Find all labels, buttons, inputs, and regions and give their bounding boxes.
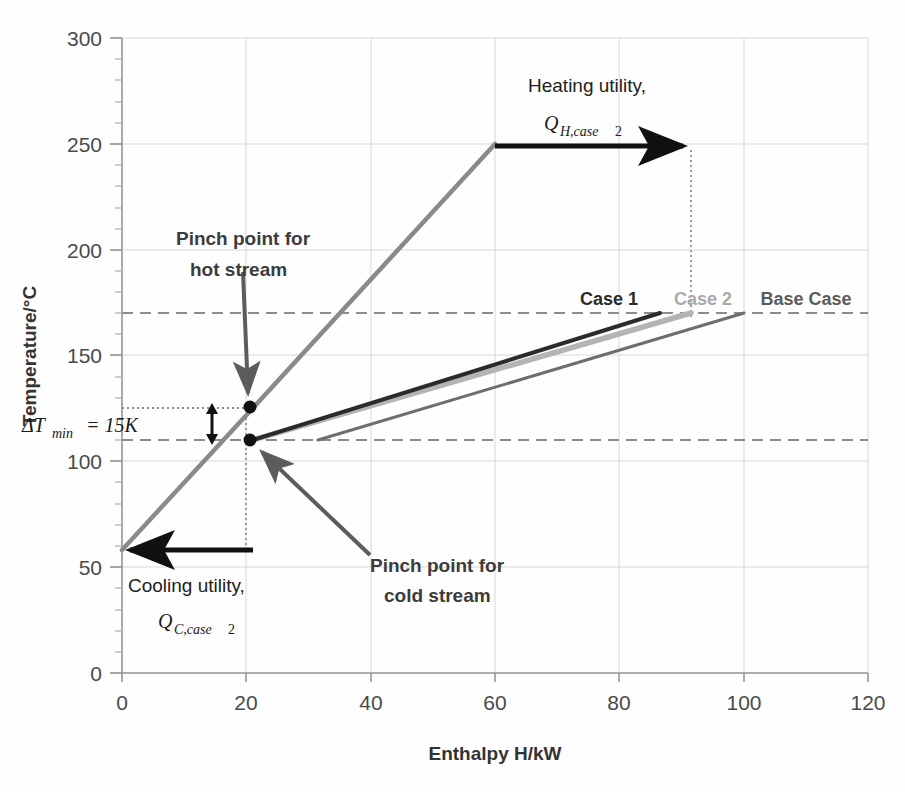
x-tick-label-20: 20 [234, 691, 257, 714]
y-tick-label-50: 50 [79, 556, 102, 579]
cooling-utility-symbol-main: Q [158, 610, 173, 632]
cold-pinch-point-marker [244, 434, 257, 447]
heating-utility-symbol-sub: H,case [559, 124, 599, 139]
x-tick-label-80: 80 [607, 691, 630, 714]
series-label-case-2: Case 2 [674, 289, 732, 309]
pinch-analysis-composite-curve-chart: 300 250 200 150 100 50 0 0 20 40 60 80 1… [0, 0, 905, 792]
x-tick-label-60: 60 [483, 691, 506, 714]
hot-pinch-point-marker [244, 401, 257, 414]
chart-canvas: 300 250 200 150 100 50 0 0 20 40 60 80 1… [0, 0, 905, 792]
pinch-cold-label-line1: Pinch point for [370, 555, 505, 576]
pinch-hot-label-line2: hot stream [190, 259, 287, 280]
pinch-cold-label-line2: cold stream [384, 585, 491, 606]
y-tick-label-200: 200 [67, 239, 102, 262]
y-tick-label-250: 250 [67, 133, 102, 156]
x-tick-label-100: 100 [726, 691, 761, 714]
cooling-utility-symbol-num: 2 [228, 622, 235, 637]
x-tick-label-0: 0 [116, 691, 128, 714]
y-tick-label-0: 0 [90, 662, 102, 685]
heating-utility-label: Heating utility, [528, 75, 646, 96]
cooling-utility-label: Cooling utility, [128, 575, 245, 596]
series-label-case-1: Case 1 [580, 289, 638, 309]
cooling-utility-symbol-sub: C,case [174, 622, 212, 637]
x-tick-label-40: 40 [359, 691, 382, 714]
y-tick-label-150: 150 [67, 344, 102, 367]
heating-utility-symbol-num: 2 [615, 124, 622, 139]
heating-utility-symbol-main: Q [544, 112, 559, 134]
x-axis-title: Enthalpy H/kW [428, 743, 561, 764]
series-label-base-case: Base Case [760, 289, 851, 309]
delta-t-min-subscript: min [52, 426, 73, 441]
y-tick-label-100: 100 [67, 450, 102, 473]
delta-t-min-symbol: ΔT [21, 414, 47, 436]
delta-t-min-value: = 15K [86, 414, 139, 436]
pinch-hot-label-line1: Pinch point for [176, 228, 311, 249]
y-axis-title: Temperature/°C [19, 286, 40, 427]
y-tick-label-300: 300 [67, 27, 102, 50]
x-tick-label-120: 120 [850, 691, 885, 714]
